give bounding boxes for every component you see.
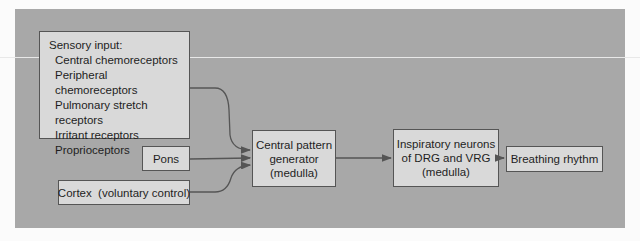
- output-arrow: [0, 0, 640, 241]
